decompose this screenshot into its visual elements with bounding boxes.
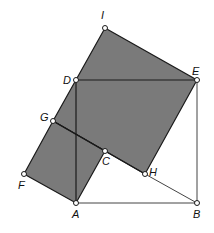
label-C: C: [102, 155, 110, 167]
label-A: A: [71, 208, 79, 220]
point-F: [22, 172, 27, 177]
point-A: [74, 201, 79, 206]
segment-HB: [145, 174, 197, 203]
label-H: H: [149, 166, 157, 178]
point-I: [103, 26, 108, 31]
label-B: B: [193, 208, 200, 220]
point-H: [143, 172, 148, 177]
point-E: [195, 78, 200, 83]
geometry-diagram: I D E G C H F A B: [0, 0, 214, 233]
point-B: [195, 201, 200, 206]
label-F: F: [18, 179, 26, 191]
point-C: [103, 149, 108, 154]
point-G: [51, 119, 56, 124]
label-E: E: [192, 65, 200, 77]
label-G: G: [40, 111, 49, 123]
point-D: [74, 78, 79, 83]
label-D: D: [63, 74, 71, 86]
label-I: I: [101, 9, 104, 21]
